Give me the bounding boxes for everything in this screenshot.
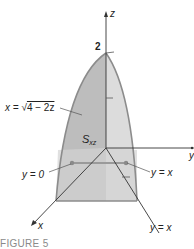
z-tick-label: 2 (95, 42, 101, 52)
z-axis-arrow-icon (104, 11, 108, 17)
curve-equation: x = √4 − 2z (5, 103, 54, 113)
region-label-subscript: xz (89, 139, 96, 146)
figure-caption: FIGURE 5 (0, 238, 49, 249)
curve-radicand: 4 − 2z (27, 102, 55, 113)
region-label: Sxz (82, 134, 96, 146)
surface-diagram (0, 0, 194, 249)
curve-lhs: x = (5, 102, 21, 113)
right-bound-label: y = x (151, 168, 172, 178)
x-axis-label: x (38, 221, 43, 231)
bottom-line-label: y = x (150, 223, 171, 233)
y-axis-end-dot (191, 147, 193, 149)
base-region (56, 148, 137, 201)
z-tick-2 (106, 52, 114, 53)
left-bound-label: y = 0 (22, 170, 44, 180)
z-axis-label: z (110, 9, 115, 19)
y-axis-label: y (189, 151, 194, 161)
